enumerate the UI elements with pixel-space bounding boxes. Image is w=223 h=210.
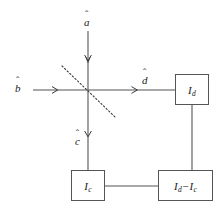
mode-c-label: c: [75, 136, 80, 147]
mode-b-label: b: [15, 83, 21, 94]
figure-canvas: a b d c Id Ic Id−Ic: [0, 0, 223, 210]
detector-c-label: Ic: [84, 180, 91, 192]
difference-box: Id−Ic: [158, 170, 213, 201]
detector-d-box: Id: [175, 74, 209, 105]
difference-label: Id−Ic: [174, 180, 197, 192]
detector-d-label: Id: [188, 84, 196, 96]
mode-d-label: d: [142, 75, 148, 86]
mode-a-label: a: [84, 17, 90, 28]
detector-c-box: Ic: [71, 170, 105, 201]
